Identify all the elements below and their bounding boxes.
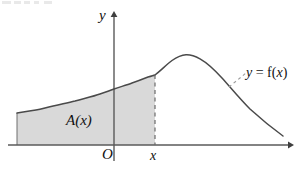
y-axis-label: y: [99, 8, 106, 23]
y-axis-arrowhead-icon: [111, 11, 118, 17]
curve-label-leader-line: [229, 73, 246, 87]
x-value-label: x: [150, 149, 156, 163]
area-function-figure: y O x A(x) y = f(x): [0, 0, 301, 176]
x-axis-arrowhead-icon: [288, 141, 294, 148]
curve-equation-close-paren: ): [283, 65, 288, 80]
curve-equation-operator: = f(: [252, 65, 276, 80]
curve-equation-label: y = f(x): [246, 66, 287, 80]
origin-label: O: [102, 147, 113, 162]
area-function-label: A(x): [66, 113, 92, 128]
